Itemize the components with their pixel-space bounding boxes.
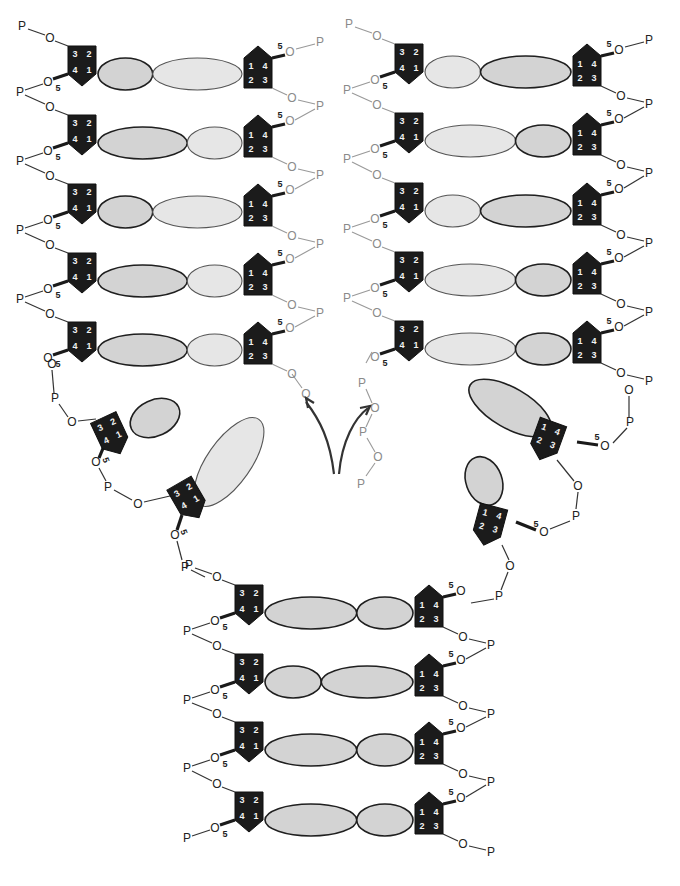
carbon-3-label: 3 bbox=[433, 821, 438, 831]
carbon-2-label: 2 bbox=[248, 351, 253, 361]
oxygen-atom: O bbox=[45, 307, 54, 321]
oxygen-atom: O bbox=[458, 767, 467, 781]
carbon-2-label: 2 bbox=[248, 282, 253, 292]
oxygen-atom: O bbox=[210, 821, 219, 835]
phosphate-atom: P bbox=[343, 152, 351, 166]
bond-line bbox=[295, 109, 315, 120]
bond-line bbox=[502, 545, 509, 560]
bond-line bbox=[466, 648, 486, 659]
c5-bond bbox=[601, 122, 614, 125]
bond-line bbox=[192, 634, 212, 643]
phosphate-atom: P bbox=[183, 624, 191, 638]
base-purine bbox=[265, 804, 357, 836]
carbon-1-label: 1 bbox=[86, 203, 91, 213]
oxygen-atom: O bbox=[373, 450, 382, 464]
c5-bond bbox=[577, 442, 598, 445]
carbon-2-label: 2 bbox=[413, 255, 418, 265]
phosphate-atom: P bbox=[316, 237, 324, 251]
bond-line bbox=[192, 771, 212, 781]
carbon-2-label: 2 bbox=[253, 657, 258, 667]
carbon-3-label: 3 bbox=[399, 255, 404, 265]
phosphate-atom: P bbox=[487, 638, 495, 652]
bond-line bbox=[295, 178, 315, 189]
bond-line bbox=[550, 521, 570, 529]
oxygen-atom: O bbox=[287, 229, 296, 243]
oxygen-atom: O bbox=[287, 298, 296, 312]
bond-line bbox=[601, 294, 616, 301]
carbon-3-label: 3 bbox=[239, 725, 244, 735]
oxygen-atom: O bbox=[370, 401, 379, 415]
carbon-4-label: 4 bbox=[399, 340, 404, 350]
phosphate-atom: P bbox=[645, 305, 653, 319]
carbon-3-label: 3 bbox=[262, 144, 267, 154]
c5-bond bbox=[380, 349, 395, 354]
sugar-pentagon-tilted: 1423 bbox=[470, 503, 507, 549]
base-pyrimidine bbox=[187, 127, 242, 159]
phosphate-atom: P bbox=[343, 83, 351, 97]
bond-line bbox=[52, 370, 54, 393]
bond-line bbox=[382, 39, 395, 44]
carbon-4-label: 4 bbox=[591, 198, 596, 208]
carbon-2-label: 2 bbox=[577, 281, 582, 291]
carbon-4-label: 4 bbox=[433, 669, 438, 679]
c5-bond bbox=[53, 212, 68, 217]
bond-line bbox=[25, 164, 45, 173]
c5-bond bbox=[601, 330, 614, 333]
base-purine bbox=[98, 127, 187, 159]
carbon-2-label: 2 bbox=[577, 350, 582, 360]
carbon-5-label: 5 bbox=[55, 152, 60, 162]
bond-line bbox=[55, 317, 68, 322]
oxygen-atom: O bbox=[616, 228, 625, 242]
base-purine bbox=[516, 125, 571, 157]
carbon-1-label: 1 bbox=[577, 267, 582, 277]
base-pyrimidine bbox=[187, 265, 242, 297]
carbon-5-label: 5 bbox=[448, 787, 453, 797]
oxygen-atom: O bbox=[624, 383, 633, 397]
c5-bond bbox=[601, 261, 614, 264]
bond-line bbox=[272, 364, 287, 371]
oxygen-atom: O bbox=[170, 528, 179, 542]
bond-line bbox=[469, 846, 486, 850]
bond-line bbox=[192, 760, 210, 766]
oxygen-atom: O bbox=[614, 182, 623, 196]
oxygen-atom: O bbox=[370, 212, 379, 226]
carbon-2-label: 2 bbox=[419, 683, 424, 693]
carbon-5-label: 5 bbox=[533, 519, 538, 529]
phosphate-atom: P bbox=[626, 415, 634, 429]
carbon-1-label: 1 bbox=[253, 673, 258, 683]
c5-bond bbox=[380, 141, 395, 146]
bond-line bbox=[272, 226, 287, 233]
bond-line bbox=[471, 599, 494, 603]
carbon-3-label: 3 bbox=[591, 350, 596, 360]
base-purine bbox=[321, 666, 413, 698]
oxygen-atom: O bbox=[43, 144, 52, 158]
phosphate-atom: P bbox=[183, 693, 191, 707]
c5-bond bbox=[53, 74, 68, 79]
base-purine bbox=[265, 597, 357, 629]
bond-line bbox=[25, 84, 43, 90]
base-purine bbox=[98, 196, 153, 228]
carbon-4-label: 4 bbox=[72, 203, 77, 213]
oxygen-atom: O bbox=[91, 455, 100, 469]
phosphate-atom: P bbox=[645, 374, 653, 388]
base-purine bbox=[357, 804, 413, 836]
oxygen-atom: O bbox=[67, 415, 76, 429]
oxygen-atom: O bbox=[456, 653, 465, 667]
carbon-5-label: 5 bbox=[222, 829, 227, 839]
carbon-1-label: 1 bbox=[413, 340, 418, 350]
carbon-1-label: 1 bbox=[253, 811, 258, 821]
c5-bond bbox=[272, 262, 285, 265]
oxygen-atom: O bbox=[573, 479, 582, 493]
bond-line bbox=[382, 316, 395, 321]
carbon-5-label: 5 bbox=[222, 691, 227, 701]
arrow-curve-left bbox=[306, 402, 334, 474]
carbon-4-label: 4 bbox=[433, 807, 438, 817]
c5-bond bbox=[443, 731, 456, 734]
bond-line bbox=[222, 649, 235, 654]
bond-line bbox=[627, 306, 644, 310]
c5-bond bbox=[272, 193, 285, 196]
base-purine bbox=[459, 451, 510, 510]
bond-line bbox=[55, 110, 68, 115]
carbon-1-label: 1 bbox=[86, 341, 91, 351]
base-pyrimidine bbox=[425, 56, 480, 88]
